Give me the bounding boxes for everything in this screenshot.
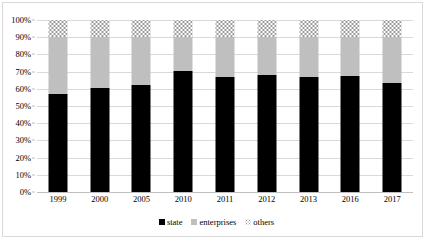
bar-segment-enterprises-2011[interactable]: [216, 37, 235, 77]
bar-stack: [216, 20, 235, 192]
bar-segment-enterprises-2010[interactable]: [174, 37, 193, 71]
bar-segment-state-2000[interactable]: [90, 88, 109, 192]
bar-segment-enterprises-2017[interactable]: [383, 37, 402, 83]
bar-group-2017[interactable]: [371, 20, 413, 192]
bar-stack: [132, 20, 151, 192]
bar-group-2010[interactable]: [162, 20, 204, 192]
y-tick-mark-50: [32, 106, 35, 107]
legend-swatch-state-icon: [159, 219, 165, 225]
bar-segment-state-1999[interactable]: [48, 94, 67, 192]
y-tick-mark-60: [32, 88, 35, 89]
y-tick-mark-10: [32, 174, 35, 175]
bar-stack: [383, 20, 402, 192]
bar-segment-enterprises-2013[interactable]: [299, 37, 318, 77]
legend-label: enterprises: [199, 218, 236, 227]
y-tick-mark-100: [32, 20, 35, 21]
bar-group-1999[interactable]: [37, 20, 79, 192]
bar-stack: [174, 20, 193, 192]
legend-label: state: [167, 218, 183, 227]
chart-container: 100%90%80%70%60%50%40%30%20%10%0% 199920…: [2, 2, 423, 237]
y-tick-mark-80: [32, 54, 35, 55]
bar-segment-others-1999[interactable]: [48, 20, 67, 37]
y-tick-mark-70: [32, 71, 35, 72]
y-tick-label-30: 30%: [15, 136, 31, 145]
bar-segment-state-2005[interactable]: [132, 85, 151, 193]
bar-segment-others-2010[interactable]: [174, 20, 193, 37]
bar-segment-enterprises-2012[interactable]: [257, 37, 276, 75]
y-tick-label-50: 50%: [15, 102, 31, 111]
legend-swatch-others-icon: [245, 219, 251, 225]
legend-item-state[interactable]: state: [159, 218, 183, 227]
y-tick-label-80: 80%: [15, 50, 31, 59]
x-tick-label-2016: 2016: [329, 195, 371, 204]
x-tick-label-1999: 1999: [37, 195, 79, 204]
x-tick-label-2017: 2017: [371, 195, 413, 204]
x-tick-label-2000: 2000: [79, 195, 121, 204]
y-tick-mark-90: [32, 37, 35, 38]
bar-segment-state-2013[interactable]: [299, 77, 318, 192]
bar-segment-enterprises-2016[interactable]: [341, 37, 360, 76]
x-tick-label-2012: 2012: [246, 195, 288, 204]
bar-segment-state-2016[interactable]: [341, 76, 360, 192]
bar-group-2016[interactable]: [329, 20, 371, 192]
y-axis: 100%90%80%70%60%50%40%30%20%10%0%: [3, 20, 35, 192]
y-tick-label-90: 90%: [15, 33, 31, 42]
gridline-0: [37, 192, 413, 193]
bar-group-2005[interactable]: [121, 20, 163, 192]
bar-segment-state-2010[interactable]: [174, 71, 193, 192]
bar-stack: [90, 20, 109, 192]
bar-stack: [257, 20, 276, 192]
y-tick-label-70: 70%: [15, 67, 31, 76]
legend-label: others: [253, 218, 274, 227]
y-tick-mark-30: [32, 140, 35, 141]
bar-segment-others-2012[interactable]: [257, 20, 276, 37]
bar-segment-enterprises-2005[interactable]: [132, 37, 151, 84]
plot-area: [37, 20, 413, 192]
bar-stack: [341, 20, 360, 192]
y-tick-label-40: 40%: [15, 119, 31, 128]
bar-segment-others-2017[interactable]: [383, 20, 402, 37]
x-tick-label-2010: 2010: [162, 195, 204, 204]
y-tick-label-100: 100%: [11, 16, 31, 25]
y-tick-mark-40: [32, 123, 35, 124]
bar-segment-enterprises-2000[interactable]: [90, 37, 109, 88]
bar-segment-others-2005[interactable]: [132, 20, 151, 37]
bar-segment-others-2000[interactable]: [90, 20, 109, 37]
y-tick-label-10: 10%: [15, 171, 31, 180]
bar-group-2012[interactable]: [246, 20, 288, 192]
x-axis: 199920002005201020112012201320162017: [37, 195, 413, 204]
y-tick-mark-20: [32, 157, 35, 158]
y-tick-label-0: 0%: [20, 188, 31, 197]
bar-group-2013[interactable]: [288, 20, 330, 192]
y-tick-mark-0: [32, 192, 35, 193]
bar-segment-state-2011[interactable]: [216, 77, 235, 192]
bar-segment-state-2012[interactable]: [257, 75, 276, 192]
bar-segment-others-2016[interactable]: [341, 20, 360, 37]
y-tick-label-60: 60%: [15, 85, 31, 94]
x-tick-label-2011: 2011: [204, 195, 246, 204]
bar-segment-others-2011[interactable]: [216, 20, 235, 37]
bar-group-2000[interactable]: [79, 20, 121, 192]
bars-layer: [37, 20, 413, 192]
x-tick-label-2013: 2013: [288, 195, 330, 204]
chart-legend: stateenterprisesothers: [3, 218, 427, 227]
bar-stack: [299, 20, 318, 192]
y-tick-label-20: 20%: [15, 153, 31, 162]
legend-item-others[interactable]: others: [245, 218, 274, 227]
bar-segment-enterprises-1999[interactable]: [48, 37, 67, 94]
x-tick-label-2005: 2005: [121, 195, 163, 204]
bar-stack: [48, 20, 67, 192]
bar-segment-others-2013[interactable]: [299, 20, 318, 37]
legend-swatch-enterprises-icon: [191, 219, 197, 225]
legend-item-enterprises[interactable]: enterprises: [191, 218, 236, 227]
bar-group-2011[interactable]: [204, 20, 246, 192]
bar-segment-state-2017[interactable]: [383, 83, 402, 192]
